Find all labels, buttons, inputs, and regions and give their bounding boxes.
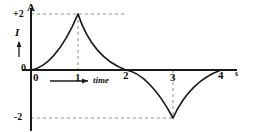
current-direction-arrow	[17, 41, 22, 57]
y-tick-label-plus2: +2	[13, 9, 24, 19]
y-tick-label-minus2: -2	[14, 112, 22, 122]
y-tick-label-zero: 0	[21, 63, 26, 73]
chart-plot-area	[0, 0, 255, 132]
current-waveform	[31, 14, 221, 118]
y-axis-unit-label: A	[27, 2, 35, 13]
x-tick-label-2: 2	[123, 70, 129, 81]
x-tick-label-3: 3	[170, 72, 176, 83]
y-axis-name-label: I	[15, 27, 19, 38]
time-direction-arrow	[50, 78, 88, 83]
x-axis-name-label: time	[93, 76, 109, 85]
x-tick-label-4: 4	[218, 70, 224, 81]
x-tick-label-1: 1	[75, 72, 81, 83]
x-tick-label-0: 0	[33, 72, 39, 83]
current-vs-time-chart: A +2 0 -2 I 0 1 2 3 4 s time	[0, 0, 255, 132]
x-axis-unit-label: s	[235, 70, 238, 78]
